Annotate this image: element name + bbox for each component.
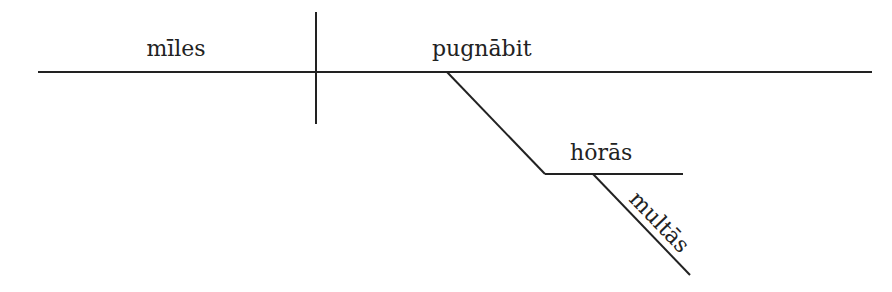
modifier-word: hōrās (570, 140, 632, 165)
verb-word: pugnābit (432, 36, 532, 61)
modifier-slant-line (447, 72, 545, 174)
sub-modifier-word: multās (624, 186, 694, 258)
subject-word: mīles (146, 36, 205, 61)
sentence-diagram: mīles pugnābit hōrās multās (0, 0, 892, 292)
